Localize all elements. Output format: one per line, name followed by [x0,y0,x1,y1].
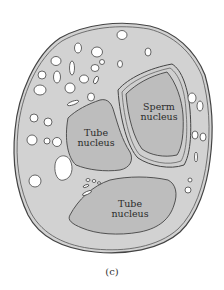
pollen-grain-diagram: Sperm nucleus Tube nucleus Tube nucleus … [0,0,224,290]
tube-nucleus-upper-label: Tube nucleus [76,128,116,148]
tube-nucleus-lower-label-line2: nucleus [110,209,150,219]
sperm-nucleus-label-line2: nucleus [139,112,179,122]
figure-caption: (c) [100,266,124,277]
sperm-nucleus-label: Sperm nucleus [139,102,179,122]
tube-nucleus-lower-label: Tube nucleus [110,199,150,219]
tube-nucleus-upper-label-line2: nucleus [76,138,116,148]
